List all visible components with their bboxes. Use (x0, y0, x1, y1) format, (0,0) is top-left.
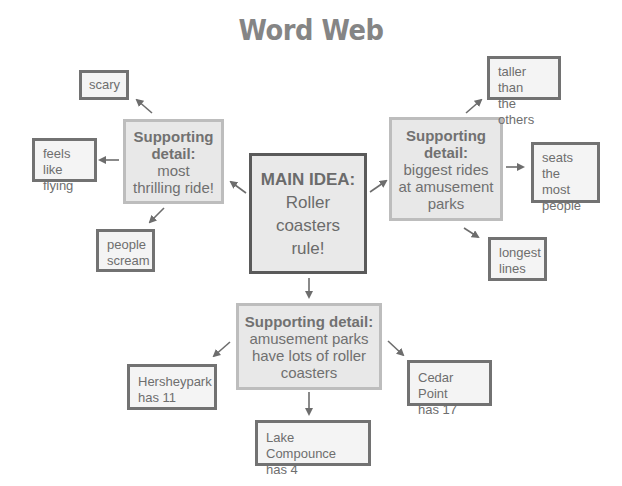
support-body: biggest rides (392, 161, 500, 178)
leaf-text: taller than (498, 64, 550, 96)
supporting-detail-bottom: Supporting detail: amusement parks have … (236, 303, 382, 390)
support-heading: Supporting (392, 127, 500, 144)
support-body: most (126, 162, 221, 179)
support-body: have lots of roller (239, 347, 379, 364)
leaf-text: seats the (542, 150, 589, 182)
leaf-text: feels like (43, 146, 86, 178)
support-body: parks (392, 195, 500, 212)
support-body: thrilling ride! (126, 179, 221, 196)
leaf-text: the others (498, 96, 550, 128)
leaf-lake-compounce: Lake Compounce has 4 (255, 420, 371, 466)
support-heading: Supporting (126, 128, 221, 145)
leaf-text: has 11 (138, 390, 206, 406)
main-idea-line: rule! (252, 237, 364, 260)
support-body: coasters (239, 364, 379, 381)
leaf-hersheypark: Hersheypark has 11 (127, 364, 217, 410)
support-heading: detail: (392, 144, 500, 161)
leaf-text: flying (43, 178, 86, 194)
leaf-text: scream (107, 253, 144, 269)
leaf-text: people (542, 198, 589, 214)
leaf-text: most (542, 182, 589, 198)
leaf-seats-most-people: seats the most people (531, 142, 600, 203)
support-body: amusement parks (239, 330, 379, 347)
supporting-detail-right: Supporting detail: biggest rides at amus… (389, 117, 503, 221)
leaf-text: scary (89, 77, 119, 93)
main-idea-line: coasters (252, 214, 364, 237)
leaf-text: lines (499, 261, 536, 277)
support-heading: detail: (126, 145, 221, 162)
leaf-text: Hersheypark (138, 374, 206, 390)
leaf-scary: scary (79, 70, 129, 100)
leaf-feels-like-flying: feels like flying (32, 138, 97, 182)
leaf-text: people (107, 237, 144, 253)
main-idea-heading: MAIN IDEA: (252, 168, 364, 191)
leaf-text: has 4 (266, 462, 360, 478)
leaf-people-scream: people scream (96, 229, 155, 272)
support-body: at amusement (392, 178, 500, 195)
main-idea-box: MAIN IDEA: Roller coasters rule! (249, 153, 367, 274)
leaf-text: longest (499, 245, 536, 261)
support-heading: Supporting detail: (239, 313, 379, 330)
leaf-longest-lines: longest lines (488, 237, 547, 281)
supporting-detail-left: Supporting detail: most thrilling ride! (123, 119, 224, 204)
leaf-text: Cedar Point (418, 370, 481, 402)
leaf-text: has 17 (418, 402, 481, 418)
main-idea-line: Roller (252, 191, 364, 214)
leaf-text: Lake Compounce (266, 430, 360, 462)
leaf-taller-than-others: taller than the others (487, 56, 561, 100)
leaf-cedar-point: Cedar Point has 17 (407, 360, 492, 406)
